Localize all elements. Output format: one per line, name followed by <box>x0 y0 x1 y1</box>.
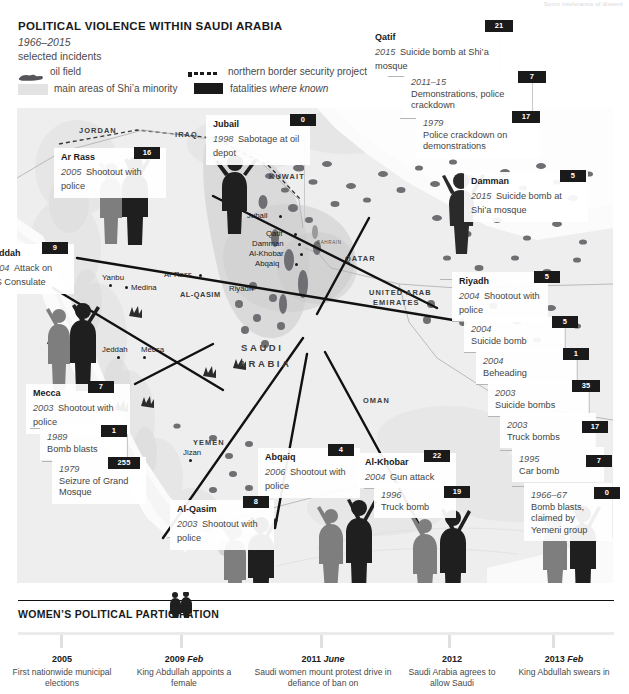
fatalities-badge: 0 <box>594 487 620 499</box>
timeline-tick <box>60 635 63 648</box>
timeline-item[interactable]: 2011 June Saudi women mount protest driv… <box>252 654 394 690</box>
incident-desc: Demonstrations, police crackdown <box>411 89 525 112</box>
timeline-tick <box>448 635 451 648</box>
fatalities-badge: 7 <box>586 455 612 467</box>
incident-card-riyadh-2004-bomb[interactable]: 2004 Suicide bomb <box>464 317 564 352</box>
women-figure-icon <box>168 592 194 618</box>
map-dot-ar-rass <box>199 274 202 277</box>
map-label-arabia: ARABIA <box>239 358 292 369</box>
legend-fatalities-label: fatalities where known <box>230 83 328 94</box>
map-dot-al-khobar <box>300 253 303 256</box>
timeline-year: 2009 <box>165 654 185 664</box>
incident-year: 2003 <box>33 403 53 413</box>
fatalities-badge: 22 <box>424 450 450 462</box>
map-label-oman: OMAN <box>363 396 390 405</box>
incident-desc: Gun attack <box>390 472 434 482</box>
map-dot-mecca <box>143 356 146 359</box>
incident-year: 1979 <box>59 464 79 474</box>
protester-silhouette <box>35 300 111 392</box>
map-city-ar-rass: Ar Rass <box>164 270 192 279</box>
fatalities-badge: 5 <box>534 271 560 283</box>
timeline-desc: Saudi women mount protest drive in defia… <box>252 667 394 690</box>
fatalities-badge: 1 <box>101 425 127 437</box>
timeline-year: 2005 <box>52 654 72 664</box>
map-label-uae-1: UNITED ARAB <box>369 288 432 297</box>
timeline-year: 2011 <box>302 654 322 664</box>
incident-year: 1966–67 <box>531 490 567 500</box>
timeline-year: 2013 <box>545 654 565 664</box>
connector-tick <box>400 118 416 119</box>
fatalities-badge: 255 <box>108 457 140 469</box>
incident-desc: Beheading <box>483 368 569 380</box>
incident-year: 2011–15 <box>411 77 446 87</box>
timeline-year: 2012 <box>442 654 462 664</box>
legend-fatalities-text: fatalities <box>230 83 269 94</box>
map-label-uae-2: EMIRATES <box>373 298 419 307</box>
incident-year: 2003 <box>507 420 527 430</box>
legend-oil-field-label: oil field <box>50 66 81 77</box>
timeline-tick <box>552 635 555 648</box>
map-city-al-khobar: Al-Khobar <box>249 249 284 258</box>
map-label-iraq: IRAQ <box>175 130 198 139</box>
map-city-damman: Damman <box>252 239 284 248</box>
legend-border-project-label: northern border security project <box>228 66 367 77</box>
fatalities-badge: 9 <box>42 242 68 254</box>
map-dot-jubail <box>279 215 282 218</box>
incident-year: 2004 <box>0 263 9 273</box>
timeline-desc: King Abdullah swears in <box>514 667 614 679</box>
incident-desc: Bomb blasts, claimed by Yemeni group <box>531 502 605 537</box>
incident-year: 1998 <box>213 134 233 144</box>
incident-year: 2003 <box>495 388 515 398</box>
incident-card-riyadh-beheading[interactable]: 2004 Beheading <box>476 349 576 384</box>
incident-year: 2004 <box>471 324 491 334</box>
incident-year: 2005 <box>61 167 81 177</box>
timeline-desc: Saudi Arabia agrees to allow Saudi <box>404 667 500 690</box>
map-dot-qatif <box>294 233 297 236</box>
timeline-item[interactable]: 2013 Feb King Abdullah swears in <box>514 654 614 678</box>
map-label-qatar: QATAR <box>345 254 376 263</box>
incident-desc: Truck bombs <box>507 432 589 444</box>
incident-desc: Police crackdown on demonstrations <box>423 130 533 153</box>
infographic-root: Sunni intolerance of dissent POLITICAL V… <box>0 0 629 694</box>
map-city-medina: Medina <box>131 283 157 292</box>
incident-desc: Seizure of Grand Mosque <box>59 476 139 499</box>
map-dot-abqaiq <box>295 263 298 266</box>
map-label-yemen: YEMEN <box>193 438 225 447</box>
map-city-mecca: Mecca <box>141 345 164 354</box>
map-label-bahrain: BAHRAIN <box>317 240 342 245</box>
incident-year: 2004 <box>365 472 385 482</box>
timeline-desc: King Abdullah appoints a female <box>132 667 236 690</box>
fatalities-badge: 17 <box>582 421 608 433</box>
subtitle: selected incidents <box>18 50 101 62</box>
timeline-axis <box>18 632 614 635</box>
incident-card-qatif-2011[interactable]: 2011–15 Demonstrations, police crackdown <box>404 70 532 117</box>
fatalities-badge: 21 <box>485 20 513 32</box>
timeline-month: Feb <box>187 654 203 664</box>
timeline-item[interactable]: 2009 Feb King Abdullah appoints a female <box>132 654 236 690</box>
incident-year: 2015 <box>375 47 395 57</box>
fatalities-badge: 5 <box>552 316 578 328</box>
timeline-month: Feb <box>567 654 583 664</box>
map-dot-jeddah <box>117 356 120 359</box>
fatalities-badge: 7 <box>88 381 114 393</box>
timeline-item[interactable]: 2005 First nationwide municipal election… <box>10 654 114 690</box>
timeline-item[interactable]: 2012 Saudi Arabia agrees to allow Saudi <box>404 654 500 690</box>
dotted-line-icon <box>188 72 222 75</box>
map-label-jordan: JORDAN <box>79 126 117 135</box>
incident-year: 1989 <box>47 432 67 442</box>
map-dot-yanbu <box>109 284 112 287</box>
fatalities-badge: 19 <box>444 486 470 498</box>
incident-title: Riyadh <box>459 276 541 288</box>
incident-year: 2006 <box>265 467 285 477</box>
incident-year: 2004 <box>483 356 503 366</box>
incident-year: 1995 <box>519 454 539 464</box>
fatalities-badge: 16 <box>134 147 160 159</box>
map-city-yanbu: Yanbu <box>102 273 124 282</box>
map-dot-jizan <box>189 459 192 462</box>
map-label-saudi: SAUDI <box>241 342 284 353</box>
fatalities-badge: 5 <box>560 170 586 182</box>
section-divider <box>18 600 614 601</box>
connector-tick <box>388 76 404 77</box>
page-title: POLITICAL VIOLENCE WITHIN SAUDI ARABIA <box>18 20 282 32</box>
incident-year: 2003 <box>177 519 197 529</box>
